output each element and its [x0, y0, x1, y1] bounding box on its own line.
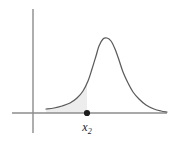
x2-point-marker: [84, 110, 90, 116]
normal-distribution-figure: x2: [0, 0, 176, 145]
figure-background: [0, 0, 176, 145]
x2-label-subscript: 2: [88, 127, 92, 136]
